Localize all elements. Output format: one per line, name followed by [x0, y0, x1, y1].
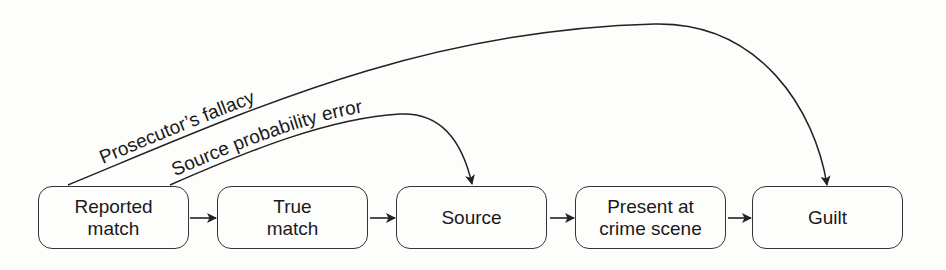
- node-guilt: Guilt: [752, 186, 903, 249]
- node-reported-match: Reported match: [38, 186, 189, 249]
- node-source: Source: [396, 186, 547, 249]
- node-present-at-crime-scene: Present at crime scene: [575, 186, 726, 249]
- node-true-match: True match: [217, 186, 368, 249]
